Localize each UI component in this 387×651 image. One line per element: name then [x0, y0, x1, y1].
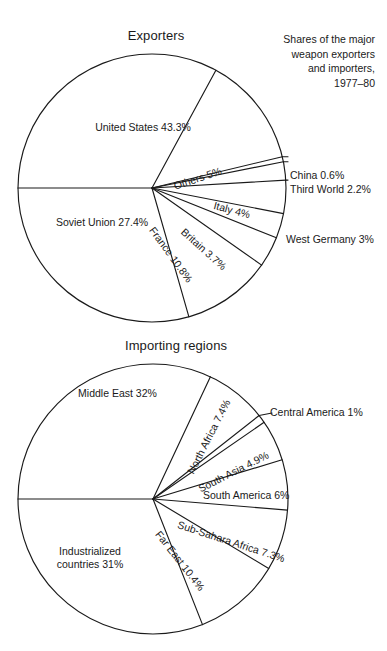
label-united-states: United States 43.3% — [88, 121, 198, 133]
importers-chart: Importing regions Middle East 32% North … — [0, 330, 387, 651]
label-industrialized-line-1: Industrialized — [59, 545, 121, 557]
weapon-trade-pie-figure: Exporters Shares of the major weapon exp… — [0, 0, 387, 651]
importers-pie-svg — [0, 330, 387, 651]
exporters-chart: Exporters Shares of the major weapon exp… — [0, 0, 387, 330]
exporters-pie-svg — [0, 0, 387, 330]
label-central-america: Central America 1% — [270, 406, 363, 418]
label-third-world: Third World 2.2% — [290, 183, 371, 195]
label-china: China 0.6% — [290, 169, 344, 181]
label-middle-east: Middle East 32% — [55, 387, 180, 399]
label-industrialized-countries: Industrialized countries 31% — [44, 545, 136, 571]
label-west-germany: West Germany 3% — [286, 233, 374, 245]
label-south-america: South America 6% — [203, 489, 289, 501]
slice-divider-westgermany-britain — [152, 188, 276, 238]
label-industrialized-line-2: countries 31% — [57, 558, 124, 570]
label-soviet-union: Soviet Union 27.4% — [42, 216, 162, 228]
